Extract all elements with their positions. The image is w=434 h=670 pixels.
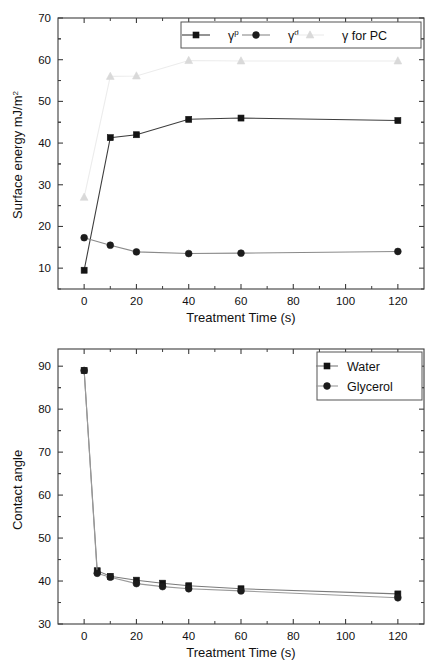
data-point-gamma-for-pc [237, 57, 245, 64]
legend-label-glycerol: Glycerol [347, 380, 393, 394]
data-point-glycerol [81, 367, 88, 374]
data-point-glycerol [107, 574, 114, 581]
x-tick-label: 80 [287, 295, 300, 307]
x-tick-label: 40 [182, 630, 195, 642]
y-tick-label: 50 [38, 95, 51, 107]
legend-label-sup-gamma-p: p [234, 28, 239, 37]
x-tick-label: 120 [388, 630, 407, 642]
legend-marker-gamma-p [193, 32, 199, 38]
series-line-glycerol [84, 370, 398, 597]
y-tick-label: 60 [38, 489, 51, 501]
data-point-gamma-d [185, 250, 192, 257]
x-tick-label: 100 [336, 295, 355, 307]
x-tick-label: 20 [130, 630, 143, 642]
series-gamma-for-pc [80, 56, 401, 200]
y-tick-label: 70 [38, 446, 51, 458]
data-point-gamma-d [394, 248, 401, 255]
x-tick-label: 60 [235, 295, 248, 307]
data-point-gamma-for-pc [394, 57, 402, 64]
y-tick-label: 40 [38, 575, 51, 587]
chart-svg-surface-energy: 02040608010012010203040506070Treatment T… [0, 0, 434, 335]
data-point-glycerol [133, 580, 140, 587]
y-axis-title-sup: 2 [11, 90, 20, 95]
y-tick-label: 10 [38, 262, 51, 274]
chart-panel-contact-angle: 02040608010012030405060708090Treatment T… [0, 335, 434, 670]
data-point-glycerol [394, 594, 401, 601]
x-axis-title: Treatment Time (s) [186, 310, 295, 325]
x-tick-label: 0 [81, 630, 87, 642]
x-tick-label: 80 [287, 630, 300, 642]
x-axis-title: Treatment Time (s) [186, 645, 295, 660]
data-point-gamma-for-pc [80, 193, 88, 200]
data-point-glycerol [185, 585, 192, 592]
x-tick-label: 60 [235, 630, 248, 642]
y-tick-label: 80 [38, 403, 51, 415]
legend-marker-water [324, 363, 330, 369]
y-tick-label: 20 [38, 220, 51, 232]
y-tick-label: 50 [38, 532, 51, 544]
data-point-gamma-p [81, 267, 87, 273]
chart-svg-contact-angle: 02040608010012030405060708090Treatment T… [0, 335, 434, 670]
y-axis-title: Surface energy mJ/m2 [10, 90, 25, 219]
legend-surface-energy: γpγdγ for PC [181, 22, 421, 48]
data-point-gamma-d [133, 248, 140, 255]
data-point-gamma-p [395, 118, 401, 124]
data-point-gamma-d [81, 234, 88, 241]
x-tick-label: 20 [130, 295, 143, 307]
series-line-water [84, 370, 398, 593]
y-tick-label: 30 [38, 618, 51, 630]
x-tick-label: 40 [182, 295, 195, 307]
data-point-gamma-d [107, 242, 114, 249]
data-point-gamma-d [238, 250, 245, 257]
data-point-gamma-p [133, 132, 139, 138]
y-tick-label: 60 [38, 54, 51, 66]
y-tick-label: 70 [38, 12, 51, 24]
data-point-glycerol [159, 583, 166, 590]
data-point-glycerol [94, 570, 101, 577]
legend-label-water: Water [347, 360, 380, 374]
y-tick-label: 40 [38, 137, 51, 149]
y-tick-label: 30 [38, 179, 51, 191]
series-gamma-d [81, 234, 402, 257]
series-line-gamma-p [84, 118, 398, 270]
series-water [81, 367, 401, 596]
data-point-gamma-p [186, 116, 192, 122]
x-tick-label: 0 [81, 295, 87, 307]
legend-label-gamma-for-pc: γ for PC [342, 29, 387, 43]
data-point-gamma-p [107, 135, 113, 141]
data-point-gamma-for-pc [185, 56, 193, 63]
y-tick-label: 90 [38, 360, 51, 372]
data-point-glycerol [238, 588, 245, 595]
legend-marker-gamma-d [253, 32, 260, 39]
series-glycerol [81, 367, 402, 601]
x-tick-label: 120 [388, 295, 407, 307]
chart-panel-surface-energy: 02040608010012010203040506070Treatment T… [0, 0, 434, 335]
x-tick-label: 100 [336, 630, 355, 642]
y-axis-title: Contact angle [10, 450, 25, 530]
data-point-gamma-p [238, 115, 244, 121]
series-line-gamma-for-pc [84, 61, 398, 198]
legend-contact-angle: WaterGlycerol [316, 352, 422, 400]
legend-marker-glycerol [324, 383, 331, 390]
figure-container: 02040608010012010203040506070Treatment T… [0, 0, 434, 670]
